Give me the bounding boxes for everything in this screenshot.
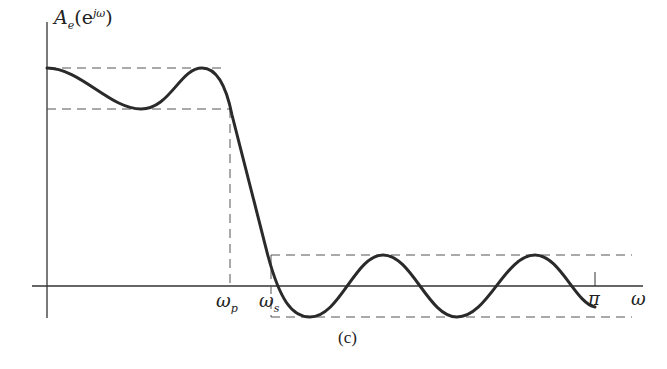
y-label-sub: e: [68, 19, 75, 32]
omega-p-label: ωp: [216, 290, 238, 311]
y-label-close: ): [105, 6, 112, 28]
y-label-sup: jω: [93, 7, 105, 20]
omega-s-label: ωs: [259, 290, 279, 311]
amplitude-response-curve: [47, 68, 595, 317]
y-label-main: A: [54, 6, 68, 28]
y-label-open: (e: [74, 6, 93, 28]
omega-s-main: ω: [259, 290, 274, 311]
x-axis-label: ω: [631, 288, 646, 309]
pi-label: π: [588, 288, 600, 309]
filter-response-plot: [0, 0, 667, 369]
omega-s-sub: s: [274, 302, 280, 315]
omega-p-main: ω: [216, 290, 231, 311]
y-axis-label: Ae(ejω): [54, 6, 113, 28]
figure-caption: (c): [338, 328, 357, 348]
omega-p-sub: p: [231, 302, 238, 315]
